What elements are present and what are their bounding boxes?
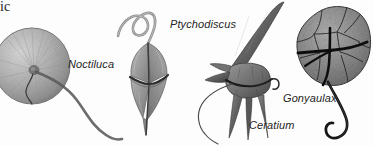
- label-gonyaulax: Gonyaulax: [283, 92, 337, 104]
- dinoflagellate-figure: ic Noctiluca Ptychodiscus Ceratium Gonya…: [0, 0, 373, 146]
- organism-gonyaulax: [297, 7, 371, 139]
- label-ptychodiscus: Ptychodiscus: [170, 18, 236, 30]
- cropped-caption-fragment: ic: [0, 0, 10, 15]
- organism-noctiluca: [0, 28, 122, 139]
- gonyaulax-flagellum: [326, 82, 347, 138]
- ptychodiscus-flagellum: [118, 13, 155, 44]
- label-ceratium: Ceratium: [249, 119, 294, 131]
- ceratium-flagellum: [198, 84, 232, 144]
- organism-ptychodiscus: [118, 13, 168, 135]
- label-noctiluca: Noctiluca: [68, 58, 114, 70]
